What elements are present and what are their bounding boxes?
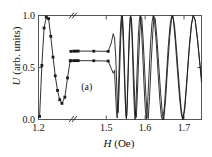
data-marker: [43, 27, 46, 30]
x-axis-unit: (Oe): [114, 137, 134, 149]
data-marker: [92, 59, 95, 62]
data-marker: [47, 17, 50, 20]
data-marker: [38, 115, 41, 118]
data-marker: [69, 50, 72, 53]
y-tick-label: 0.0: [23, 114, 36, 125]
data-marker: [107, 60, 110, 63]
data-marker: [56, 89, 59, 92]
data-marker: [92, 50, 95, 53]
data-marker: [52, 56, 55, 59]
x-tick-labels: 1.21.51.61.7: [32, 122, 190, 133]
data-marker: [58, 98, 61, 101]
data-marker: [63, 96, 66, 99]
x-tick-label: 1.5: [100, 122, 113, 133]
x-tick-label: 1.7: [178, 122, 191, 133]
y-axis-variable: U: [10, 78, 22, 86]
x-axis-variable: H: [104, 137, 112, 149]
data-marker: [77, 50, 80, 53]
figure-panel: 1.21.51.61.7 0.00.51.0 (a) U (arb. units…: [0, 0, 212, 157]
data-marker: [49, 35, 52, 38]
x-tick-label: 1.6: [139, 122, 152, 133]
plot-svg: 1.21.51.61.7 0.00.51.0 (a): [0, 0, 212, 157]
y-tick-label: 0.5: [23, 62, 36, 73]
panel-label: (a): [81, 81, 92, 93]
y-axis-label: U (arb. units): [10, 11, 22, 101]
data-marker: [54, 74, 57, 77]
data-marker: [40, 64, 43, 67]
y-axis-unit: (arb. units): [10, 27, 22, 75]
data-marker: [61, 102, 64, 105]
y-tick-labels: 0.00.51.0: [23, 10, 36, 125]
data-marker: [66, 77, 69, 80]
y-tick-label: 1.0: [23, 10, 36, 21]
data-marker: [69, 59, 72, 62]
x-axis-label: H (Oe): [74, 137, 164, 149]
data-marker: [107, 50, 110, 53]
data-marker: [77, 59, 80, 62]
